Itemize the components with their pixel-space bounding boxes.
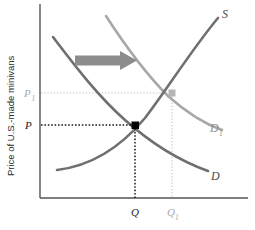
- demand-shifted-curve-label: D: [209, 121, 219, 135]
- x-tick-labels-group: Q Q 1: [131, 206, 179, 222]
- y-axis-title: Price of U.S.-made minivans: [5, 55, 16, 176]
- new-equilibrium-marker: [169, 90, 176, 97]
- demand-curve-label: D: [210, 169, 220, 183]
- initial-equilibrium-marker: [132, 122, 140, 130]
- supply-curve: [57, 18, 218, 170]
- chart-canvas: Price of U.S.-made minivans P 1 P Q Q 1 …: [0, 0, 255, 230]
- y-tick-label-price-high-subscript: 1: [32, 94, 36, 103]
- supply-demand-chart: Price of U.S.-made minivans P 1 P Q Q 1 …: [0, 0, 255, 230]
- y-tick-label-price-high: P: [23, 87, 31, 99]
- x-tick-label-quantity-high-subscript: 1: [175, 213, 179, 222]
- y-tick-labels-group: P 1 P: [23, 87, 35, 131]
- curve-labels-group: S D 1 D: [209, 7, 228, 183]
- supply-curve-label: S: [222, 7, 228, 21]
- y-tick-label-price-low: P: [24, 119, 32, 131]
- x-tick-label-quantity-low: Q: [131, 206, 139, 218]
- equilibrium-markers-group: [132, 90, 176, 130]
- demand-shift-arrow: [75, 51, 137, 70]
- demand-shifted-curve-label-subscript: 1: [219, 129, 223, 138]
- x-tick-label-quantity-high: Q: [167, 206, 175, 218]
- demand-shift-arrow-shape: [75, 51, 137, 70]
